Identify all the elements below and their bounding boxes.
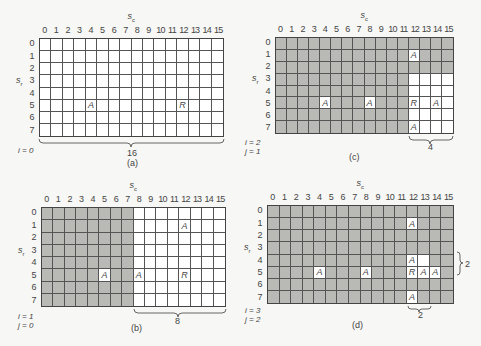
col-label: 3 — [302, 192, 314, 202]
grid-cell — [145, 282, 156, 294]
grid-cell — [398, 109, 409, 121]
grid-cell — [53, 208, 64, 220]
grid-cell — [53, 245, 64, 257]
col-label: 4 — [85, 25, 97, 35]
grid-cell — [303, 206, 315, 218]
grid-cell — [122, 220, 133, 232]
row-label: 1 — [264, 49, 272, 59]
grid-a: AR — [39, 38, 224, 137]
grid-d: AAAARAAA — [267, 205, 454, 304]
grid-cell — [276, 62, 287, 74]
cell-mark-r: R — [407, 267, 419, 279]
brace-d-2v — [457, 252, 463, 275]
grid-cell — [384, 291, 396, 303]
row-label: 2 — [256, 230, 264, 240]
col-label: 12 — [180, 194, 192, 204]
grid-cell — [143, 39, 154, 51]
grid-cell — [51, 63, 62, 75]
grid-cell — [430, 230, 442, 242]
grid-cell — [337, 279, 349, 291]
grid-cell — [420, 86, 431, 98]
cell-mark-a: A — [409, 50, 420, 62]
grid-cell — [42, 245, 53, 257]
grid-cell — [349, 218, 361, 230]
grid-cell — [309, 121, 320, 133]
grid-cell — [42, 208, 53, 220]
row-label: 3 — [256, 242, 264, 252]
grid-cell — [97, 124, 108, 136]
grid-cell — [120, 63, 131, 75]
grid-cell — [387, 86, 398, 98]
grid-cell — [365, 50, 376, 62]
grid-cell — [291, 230, 303, 242]
grid-cell — [441, 206, 453, 218]
grid-cell — [384, 218, 396, 230]
grid-cell — [309, 97, 320, 109]
grid-cell — [431, 109, 442, 121]
grid-cell — [349, 279, 361, 291]
grid-cell — [42, 294, 53, 306]
grid-cell — [86, 51, 97, 63]
grid-cell — [409, 74, 420, 86]
col-label: 15 — [214, 194, 226, 204]
grid-cell — [99, 245, 110, 257]
grid-cell — [143, 112, 154, 124]
grid-cell — [441, 230, 453, 242]
grid-cell — [337, 255, 349, 267]
grid-cell — [384, 206, 396, 218]
grid-cell — [349, 230, 361, 242]
col-axis-label: sc — [357, 178, 365, 190]
grid-cell — [166, 88, 177, 100]
grid-cell — [268, 255, 280, 267]
grid-cell — [168, 294, 179, 306]
grid-cell — [365, 86, 376, 98]
row-axis-label: sr — [18, 245, 25, 257]
grid-cell — [309, 50, 320, 62]
grid-cell — [51, 75, 62, 87]
grid-cell — [202, 269, 213, 281]
grid-cell — [212, 63, 223, 75]
brace-label-d-2h: 2 — [418, 310, 423, 320]
grid-cell — [331, 50, 342, 62]
grid-cell — [298, 62, 309, 74]
grid-cell — [97, 39, 108, 51]
grid-cell — [200, 88, 211, 100]
row-label: 6 — [28, 112, 36, 122]
grid-cell — [431, 74, 442, 86]
grid-cell — [320, 38, 331, 50]
grid-cell — [342, 50, 353, 62]
grid-cell — [145, 208, 156, 220]
grid-cell — [431, 86, 442, 98]
grid-cell — [88, 269, 99, 281]
col-label: 9 — [145, 194, 157, 204]
grid-cell — [276, 121, 287, 133]
grid-cell — [384, 267, 396, 279]
grid-cell — [111, 245, 122, 257]
grid-cell — [214, 294, 225, 306]
col-label: 1 — [279, 192, 291, 202]
grid-cell — [111, 294, 122, 306]
grid-cell — [143, 63, 154, 75]
grid-cell — [268, 230, 280, 242]
cell-mark-a: A — [314, 267, 326, 279]
col-label: 0 — [39, 25, 51, 35]
grid-cell — [168, 269, 179, 281]
grid-cell — [314, 242, 326, 254]
grid-cell — [387, 109, 398, 121]
grid-cell — [287, 50, 298, 62]
grid-cell — [268, 242, 280, 254]
grid-cell — [166, 51, 177, 63]
grid-cell — [442, 86, 453, 98]
col-label: 6 — [108, 25, 120, 35]
col-label: 14 — [203, 194, 215, 204]
grid-cell — [280, 291, 292, 303]
cell-mark-a: A — [99, 269, 110, 281]
grid-cell — [132, 75, 143, 87]
grid-cell — [353, 74, 364, 86]
grid-cell — [74, 51, 85, 63]
row-label: 0 — [30, 207, 38, 217]
grid-cell — [122, 282, 133, 294]
grid-cell — [342, 62, 353, 74]
cell-mark-a: A — [409, 121, 420, 133]
grid-cell — [200, 100, 211, 112]
